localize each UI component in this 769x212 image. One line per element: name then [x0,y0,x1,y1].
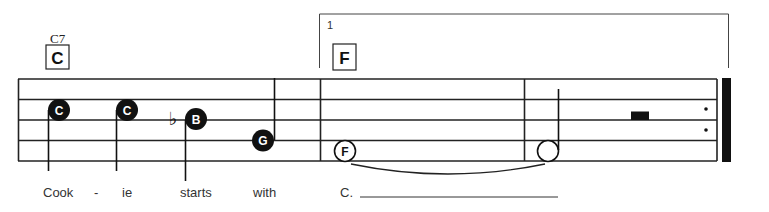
lyric-c: C. [340,185,353,200]
first-ending-bracket [320,14,729,68]
svg-text:F: F [341,145,348,159]
chord-box-letter-c: C [51,49,63,68]
flat-icon: ♭ [169,108,178,129]
chord-name-c7: C7 [50,31,66,46]
music-score: 1 C7 C F C C ♭ B G F [0,0,769,212]
lyric-starts: starts [180,185,212,200]
svg-text:C: C [55,104,64,118]
tie [351,164,545,174]
svg-text:G: G [258,134,267,148]
lyric-hyphen: - [94,185,98,200]
svg-text:B: B [192,113,201,127]
repeat-dot-lower [704,128,708,132]
ending-number: 1 [327,19,333,31]
note-f-whole: F [335,141,356,162]
barline-repeat-thick [722,78,731,162]
half-rest [631,112,649,121]
note-g: G [252,78,275,152]
lyric-cook: Cook [43,185,74,200]
lyric-ie: ie [122,185,132,200]
note-b-flat: ♭ B [169,108,207,181]
lyrics: Cook - ie starts with C. [43,185,558,200]
svg-text:C: C [123,104,132,118]
repeat-dot-upper [704,107,708,111]
chord-box-letter-f: F [339,49,349,68]
lyric-with: with [252,185,276,200]
